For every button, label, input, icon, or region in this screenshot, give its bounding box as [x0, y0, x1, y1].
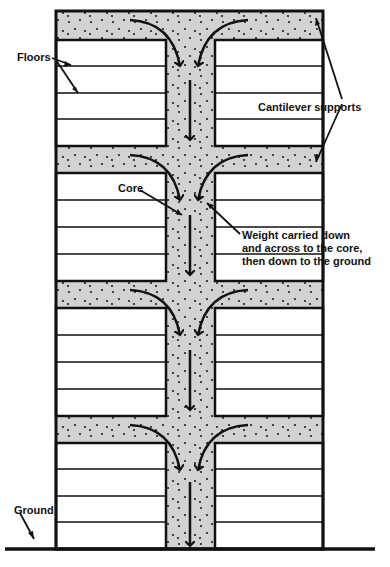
label-weight-line-3: then down to the ground: [242, 255, 371, 267]
label-weight-line-1: Weight carried down: [242, 229, 350, 241]
label-weight-line-2: and across to the core,: [242, 242, 362, 254]
building-structure-diagram: Floors Cantilever supports Core Weight c…: [0, 0, 390, 567]
cantilever-slab-4: [56, 416, 323, 443]
label-cantilever-supports: Cantilever supports: [258, 101, 361, 113]
cantilever-slab-2: [56, 146, 323, 173]
label-core: Core: [118, 182, 143, 194]
cantilever-slab-3: [56, 281, 323, 308]
label-ground: Ground: [14, 504, 54, 516]
cantilever-slab-1: [56, 11, 323, 40]
label-floors: Floors: [17, 51, 51, 63]
